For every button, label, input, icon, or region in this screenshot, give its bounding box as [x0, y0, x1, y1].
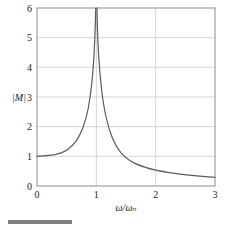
y-tick-4: 4 [27, 62, 32, 73]
curve-left-branch [37, 8, 96, 156]
y-axis-title: |M| [12, 92, 26, 103]
x-tick-2: 2 [153, 189, 158, 200]
x-tick-1: 1 [94, 189, 99, 200]
x-axis-title: ω/ωₙ [116, 202, 138, 213]
y-tick-labels: 6 5 4 3 2 1 0 [27, 3, 32, 192]
y-tick-1: 1 [27, 151, 32, 162]
chart-svg: 6 5 4 3 2 1 0 0 1 2 3 |M| ω/ωₙ [0, 0, 227, 228]
chart-figure: 6 5 4 3 2 1 0 0 1 2 3 |M| ω/ωₙ [0, 0, 227, 228]
y-tick-3: 3 [27, 92, 32, 103]
x-tick-0: 0 [35, 189, 40, 200]
bottom-gray-bar [8, 220, 72, 224]
y-tick-0: 0 [27, 181, 32, 192]
horizontal-gridlines [37, 38, 215, 157]
x-tick-labels: 0 1 2 3 [35, 189, 218, 200]
y-tick-2: 2 [27, 121, 32, 132]
y-tick-5: 5 [27, 32, 32, 43]
x-tick-3: 3 [213, 189, 218, 200]
y-tick-6: 6 [27, 3, 32, 14]
